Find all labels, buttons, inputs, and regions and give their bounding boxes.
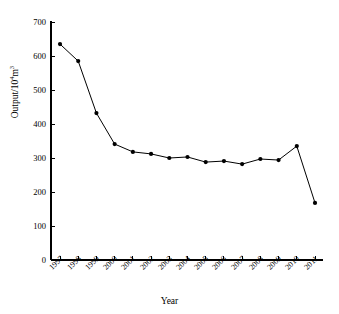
y-axis-title: Output/104m3 <box>8 32 20 152</box>
data-point <box>167 156 171 160</box>
data-point <box>313 201 317 205</box>
data-point <box>76 59 80 63</box>
data-point <box>240 162 244 166</box>
y-axis-title-unit-exponent: 3 <box>8 66 15 69</box>
data-point <box>113 142 117 146</box>
y-axis-tick-label: 500 <box>18 86 46 95</box>
y-axis-tick-label: 200 <box>18 188 46 197</box>
y-axis-tick-label: 400 <box>18 120 46 129</box>
y-axis-tick-label: 300 <box>18 154 46 163</box>
data-point <box>204 160 208 164</box>
data-point <box>94 111 98 115</box>
data-point <box>58 42 62 46</box>
x-axis-title: Year <box>0 296 339 306</box>
line-chart: 0100200300400500600700 19971998199920002… <box>0 0 339 314</box>
y-axis-tick-label: 600 <box>18 52 46 61</box>
y-axis-tick-label: 0 <box>18 256 46 265</box>
y-axis-tick-label: 100 <box>18 222 46 231</box>
y-axis-title-exponent: 4 <box>8 77 15 80</box>
data-point <box>149 152 153 156</box>
y-axis-title-unit: m <box>10 69 20 76</box>
y-axis-tick-label: 700 <box>18 18 46 27</box>
y-axis-title-text: Output/10 <box>10 80 20 119</box>
data-point <box>295 144 299 148</box>
data-point <box>222 159 226 163</box>
data-point <box>185 155 189 159</box>
data-point <box>276 158 280 162</box>
data-point <box>258 157 262 161</box>
data-point <box>131 150 135 154</box>
